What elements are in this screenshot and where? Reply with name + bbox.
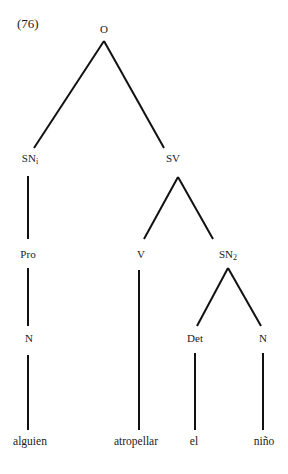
leaf-nino: niño — [254, 436, 274, 448]
node-n1-label: N — [25, 332, 33, 344]
node-sn1: SNi — [22, 153, 38, 164]
branch-sv-sn2 — [178, 177, 213, 239]
node-n1: N — [25, 333, 33, 344]
tree-branches — [0, 0, 288, 474]
node-sv-label: SV — [166, 152, 180, 164]
leaf-el: el — [190, 436, 198, 448]
node-pro: Pro — [20, 249, 35, 260]
node-o-label: O — [100, 23, 108, 35]
node-sn1-subscript: i — [36, 157, 38, 166]
branch-sv-v — [144, 177, 178, 239]
node-n2: N — [259, 333, 267, 344]
branch-sn2-n — [228, 268, 261, 326]
node-pro-label: Pro — [20, 248, 35, 260]
branch-o-sn1 — [34, 41, 104, 148]
node-n2-label: N — [259, 332, 267, 344]
node-sn2: SN2 — [219, 249, 237, 260]
node-sn1-label: SN — [22, 152, 36, 164]
node-v: V — [137, 249, 145, 260]
branch-o-sv — [104, 41, 164, 148]
node-o: O — [100, 24, 108, 35]
node-sn2-subscript: 2 — [233, 253, 237, 262]
leaf-atropellar: atropellar — [114, 436, 158, 448]
leaf-alguien: alguien — [13, 436, 47, 448]
node-det-label: Det — [187, 332, 203, 344]
node-det: Det — [187, 333, 203, 344]
node-v-label: V — [137, 248, 145, 260]
node-sn2-label: SN — [219, 248, 233, 260]
branch-sn2-det — [197, 268, 228, 326]
node-sv: SV — [166, 153, 180, 164]
